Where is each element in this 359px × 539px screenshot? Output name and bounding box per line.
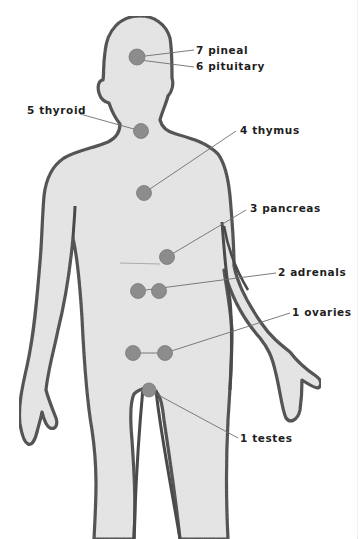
label-testes: 1 testes [240, 432, 293, 444]
dot-adrenal-left [131, 284, 146, 299]
dot-adrenal-right [152, 284, 167, 299]
dot-thyroid [134, 124, 149, 139]
label-thyroid: 5 thyroid [27, 104, 86, 116]
dot-ovary-left [126, 346, 141, 361]
endocrine-diagram: 7 pineal 6 pituitary 5 thyroid 4 thymus … [0, 0, 359, 539]
label-pancreas: 3 pancreas [250, 202, 321, 214]
page-edge-divider [357, 0, 358, 539]
label-adrenals: 2 adrenals [278, 266, 346, 278]
dot-ovary-right [158, 346, 173, 361]
label-pituitary: 6 pituitary [196, 60, 265, 72]
dot-pancreas [160, 250, 175, 265]
dot-thymus [137, 186, 152, 201]
label-pineal: 7 pineal [196, 44, 248, 56]
label-ovaries: 1 ovaries [292, 306, 352, 318]
dot-pineal-pituitary [129, 49, 145, 65]
dot-testes [142, 383, 156, 397]
body-silhouette [19, 16, 320, 539]
label-thymus: 4 thymus [240, 124, 300, 136]
